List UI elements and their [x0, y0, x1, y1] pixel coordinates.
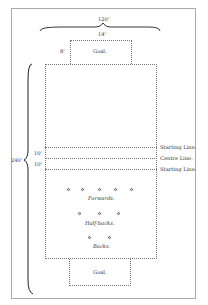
half-back-player	[117, 212, 120, 215]
starting-line-lower-label: Starting Line.	[160, 167, 196, 172]
top-goal-label: Goal.	[93, 49, 107, 54]
back-player	[88, 236, 91, 239]
centre-line	[45, 158, 157, 159]
centre-line-label: Centre Line.	[160, 156, 193, 161]
forward-player	[130, 188, 133, 191]
playing-field	[45, 64, 157, 259]
half-back-player	[98, 212, 101, 215]
goal-width-label: 14'	[98, 32, 106, 37]
starting-line-upper-label: Starting Line.	[160, 145, 196, 150]
forward-player	[98, 188, 101, 191]
starting-line-upper	[45, 147, 157, 148]
forward-player	[114, 188, 117, 191]
goal-depth-label: 8'	[60, 49, 65, 54]
forward-player	[67, 188, 70, 191]
back-player	[108, 236, 111, 239]
lower-gap-label: 10'	[34, 162, 42, 167]
starting-line-lower	[45, 169, 157, 170]
forwards-label: Forwards.	[88, 196, 115, 201]
half-back-player	[78, 212, 81, 215]
forward-player	[81, 188, 84, 191]
upper-gap-label: 10'	[34, 151, 42, 156]
bottom-goal-label: Goal.	[93, 270, 107, 275]
length-total-label: 240'	[11, 158, 22, 163]
backs-label: Backs.	[93, 244, 110, 249]
width-total-label: 120'	[98, 17, 109, 22]
half-backs-label: Half-backs.	[85, 221, 115, 226]
